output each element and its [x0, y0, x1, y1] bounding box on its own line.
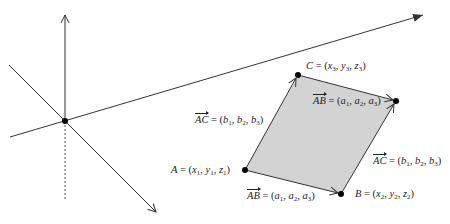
label-vector-ac-left: AC = (b1, b2, b3) — [195, 114, 263, 129]
point-b — [338, 191, 344, 197]
label-vector-ab-bottom: AB = (a1, a2, a3) — [247, 190, 315, 205]
label-vector-ab-top: AB = (a1, a2, a3) — [313, 95, 381, 110]
point-c — [295, 72, 301, 78]
origin-point — [62, 118, 68, 124]
point-a — [242, 167, 248, 173]
label-point-a: A = (x1, y1, z1) — [171, 164, 230, 179]
point-d — [393, 98, 399, 104]
label-vector-ac-right: AC = (b1, b2, b3) — [373, 155, 441, 170]
label-point-c: C = (x3, y3, z3) — [306, 60, 366, 75]
diagonal-axis — [9, 65, 156, 212]
label-point-b: B = (x2, y2, z2) — [355, 188, 414, 203]
parallelogram-area — [245, 75, 396, 194]
